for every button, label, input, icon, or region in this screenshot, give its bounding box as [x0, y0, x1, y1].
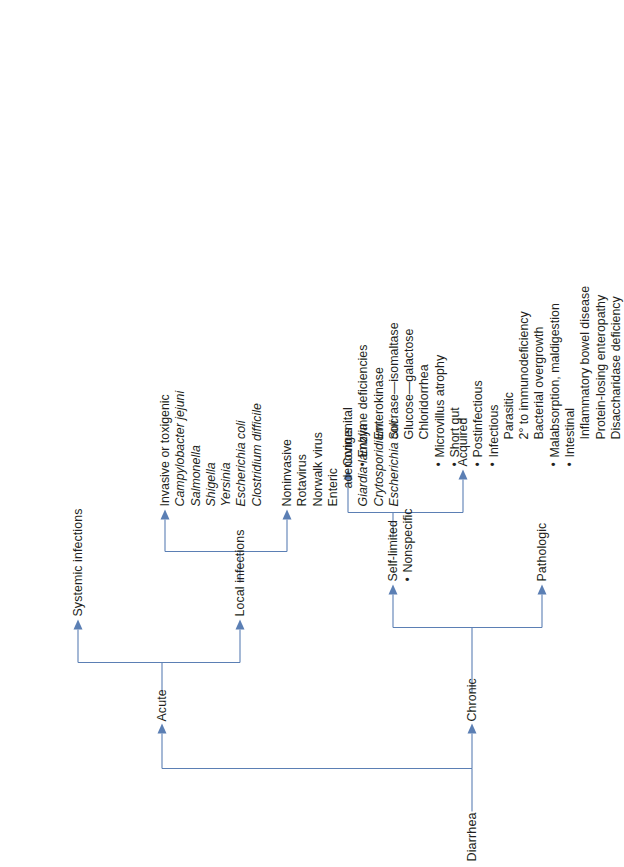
list-item: Inflammatory bowel disease	[578, 258, 593, 466]
list-item: Intestinal	[563, 258, 578, 466]
list-item: Chloridorrhea	[417, 322, 432, 466]
list-item: Rotavirus	[295, 420, 310, 506]
list-item: Congenital	[341, 322, 356, 466]
list-item: Bacterial overgrowth	[532, 258, 547, 466]
list-item: Self-limited	[386, 508, 401, 581]
list-item: Enterokinase	[372, 322, 387, 466]
list-item: Clostridium difficile	[250, 390, 265, 506]
node-systemic-infections: Systemic infections	[71, 508, 86, 616]
list-congenital: Congenital Enzyme deficiencies Enterokin…	[341, 322, 463, 466]
node-pathologic: Pathologic	[535, 522, 550, 581]
node-root: Diarrhea	[465, 812, 480, 861]
list-item: Sucrase—isomaltase	[387, 322, 402, 466]
list-item: Disaccharidase deficiency	[609, 258, 624, 466]
list-item: Protein-losing enteropathy	[594, 258, 609, 466]
list-item: Noninvasive	[280, 420, 295, 506]
list-item: Yersinia	[219, 390, 234, 506]
list-item: Postinfectious	[471, 258, 486, 466]
node-acute: Acute	[155, 689, 170, 721]
list-item: Invasive or toxigenic	[158, 390, 173, 506]
diagram-canvas: Diarrhea Acute Chronic Systemic infectio…	[0, 0, 624, 867]
list-item: Nonspecific	[401, 508, 416, 581]
list-item: Microvillus atrophy	[433, 322, 448, 466]
list-item: Parasitic	[502, 258, 517, 466]
node-local-infections: Local infections	[233, 529, 248, 616]
list-item: Enteric	[326, 420, 341, 506]
list-item: Norwalk virus	[311, 420, 326, 506]
list-item: Shigella	[204, 390, 219, 506]
list-self-limited: Self-limited Nonspecific	[386, 508, 417, 581]
list-item: Salmonella	[189, 390, 204, 506]
list-item: Escherichia coli	[234, 390, 249, 506]
list-item: Acquired	[456, 258, 471, 466]
list-item: Enzyme deficiencies	[356, 322, 371, 466]
list-acquired: Acquired Postinfectious Infectious Paras…	[456, 258, 624, 466]
diagram-stage: Diarrhea Acute Chronic Systemic infectio…	[0, 0, 624, 867]
node-chronic: Chronic	[465, 678, 480, 721]
list-item: Malabsorption, maldigestion	[548, 258, 563, 466]
list-item: Campylobacter jejuni	[173, 390, 188, 506]
list-item: Infectious	[487, 258, 502, 466]
list-item: 2° to immunodeficiency	[517, 258, 532, 466]
list-item: Glucose—galactose	[402, 322, 417, 466]
list-invasive-or-toxigenic: Invasive or toxigenic Campylobacter jeju…	[158, 390, 265, 506]
